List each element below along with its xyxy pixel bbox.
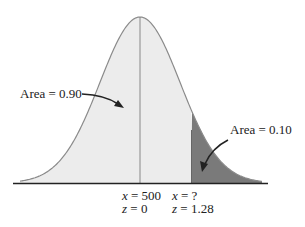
area-right-label: Area = 0.10 [230, 122, 292, 137]
area-left-label: Area = 0.90 [20, 86, 82, 101]
mean-z-label: z = 0 [121, 201, 147, 216]
cut-z-value: = 1.28 [177, 201, 214, 216]
mean-z-value: = 0 [127, 201, 147, 216]
normal-curve-diagram: Area = 0.90 Area = 0.10 x = 500 z = 0 x … [0, 0, 305, 227]
cut-z-label: z = 1.28 [171, 201, 214, 216]
